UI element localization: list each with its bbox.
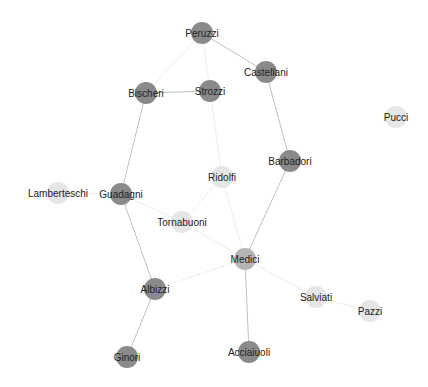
node-label-pazzi: Pazzi — [358, 306, 382, 317]
edge-guadagni-albizzi — [121, 194, 155, 289]
edge-barbadori-medici — [245, 161, 290, 259]
labels-layer: PeruzziCastellaniBischeriStrozziPucciRid… — [28, 28, 408, 363]
node-label-pucci: Pucci — [384, 112, 408, 123]
node-label-ginori: Ginori — [114, 352, 141, 363]
node-label-barbadori: Barbadori — [268, 156, 311, 167]
node-label-tornabuoni: Tornabuoni — [157, 217, 206, 228]
edge-strozzi-ridolfi — [210, 91, 222, 177]
node-label-acciaiuoli: Acciaiuoli — [228, 347, 270, 358]
edge-ridolfi-medici — [222, 177, 245, 259]
node-label-salviati: Salviati — [300, 292, 332, 303]
edge-peruzzi-bischeri — [146, 33, 202, 93]
node-label-bischeri: Bischeri — [128, 88, 164, 99]
node-label-strozzi: Strozzi — [195, 86, 226, 97]
node-label-albizzi: Albizzi — [141, 284, 170, 295]
edge-medici-acciaiuoli — [245, 259, 249, 352]
edge-castellani-barbadori — [266, 72, 290, 161]
node-label-ridolfi: Ridolfi — [208, 172, 236, 183]
node-label-medici: Medici — [231, 254, 260, 265]
node-label-guadagni: Guadagni — [99, 189, 142, 200]
node-label-peruzzi: Peruzzi — [185, 28, 218, 39]
network-graph-canvas: PeruzziCastellaniBischeriStrozziPucciRid… — [0, 0, 428, 387]
node-label-lamberteschi: Lamberteschi — [28, 188, 88, 199]
network-graph: PeruzziCastellaniBischeriStrozziPucciRid… — [0, 0, 428, 387]
edge-bischeri-guadagni — [121, 93, 146, 194]
edge-albizzi-ginori — [127, 289, 155, 357]
node-label-castellani: Castellani — [244, 67, 288, 78]
